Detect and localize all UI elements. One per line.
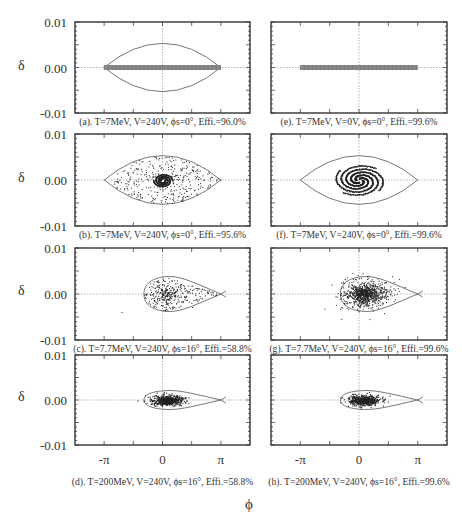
x-axis-title: ϕ [245, 496, 253, 513]
y-tick-label: -0.01 [40, 333, 67, 348]
panel-d: (d). T=200MeV, V=240V, ϕs=16°, Effi.=58.… [40, 348, 253, 488]
panel-b: (b). T=7MeV, V=240V, ϕs=0°, Effi.=95.6%0… [40, 127, 250, 241]
y-tick-label: 0.01 [44, 15, 67, 30]
panel-f: (f). T=7MeV, V=240V, ϕs=0°, Effi.=99.6% [271, 134, 447, 241]
x-tick-label: π [218, 452, 225, 467]
panel-caption: (a). T=7MeV, V=240V, ϕs=0°, Effi.=96.0% [79, 116, 246, 128]
x-tick-label: 0 [356, 452, 363, 467]
y-tick-label: 0.00 [44, 393, 67, 408]
y-tick-label: 0.01 [44, 127, 67, 142]
panel-caption: (f). T=7MeV, V=240V, ϕs=0°, Effi.=99.6% [276, 229, 442, 241]
y-tick-label: 0.00 [44, 287, 67, 302]
panel-caption: (b). T=7MeV, V=240V, ϕs=0°, Effi.=95.6% [79, 229, 246, 241]
y-tick-label: -0.01 [40, 438, 67, 453]
panel-e: (e). T=7MeV, V=0V, ϕs=0°, Effi.=99.6% [271, 22, 447, 128]
y-tick-label: -0.01 [40, 219, 67, 234]
particle-distribution [324, 273, 405, 320]
panel-caption: (e). T=7MeV, V=0V, ϕs=0°, Effi.=99.6% [280, 116, 437, 128]
x-tick-label: -π [295, 452, 306, 467]
x-tick-label: π [414, 452, 421, 467]
x-tick-label: 0 [159, 452, 166, 467]
y-tick-label: -0.01 [40, 106, 67, 121]
panel-caption: (g). T=7.7MeV, V=240V, ϕs=16°, Effi.=99.… [269, 343, 448, 355]
panel-h: (h). T=200MeV, V=240V, ϕs=16°, Effi.=99.… [268, 355, 450, 488]
panel-c: (c). T=7.7MeV, V=240V, ϕs=16°, Effi.=58.… [40, 241, 252, 355]
panel-caption: (d). T=200MeV, V=240V, ϕs=16°, Effi.=58.… [72, 476, 254, 488]
y-tick-label: 0.00 [44, 61, 67, 76]
particle-line [104, 65, 221, 70]
panel-caption: (c). T=7.7MeV, V=240V, ϕs=16°, Effi.=58.… [73, 343, 252, 355]
phase-space-figure: (a). T=7MeV, V=240V, ϕs=0°, Effi.=96.0%0… [0, 0, 462, 527]
y-axis-title-d: δ [18, 389, 25, 405]
y-axis-title-b: δ [18, 170, 25, 186]
y-axis-title-c: δ [18, 283, 25, 299]
y-axis-title-a: δ [18, 58, 25, 74]
panel-g: (g). T=7.7MeV, V=240V, ϕs=16°, Effi.=99.… [269, 248, 448, 355]
y-tick-label: 0.01 [44, 241, 67, 256]
panel-caption: (h). T=200MeV, V=240V, ϕs=16°, Effi.=99.… [268, 476, 450, 488]
particle-distribution [122, 278, 218, 313]
x-tick-label: -π [99, 452, 110, 467]
y-tick-label: 0.00 [44, 173, 67, 188]
particle-distribution [137, 392, 189, 407]
particle-distribution [336, 165, 384, 196]
panel-a: (a). T=7MeV, V=240V, ϕs=0°, Effi.=96.0%0… [40, 15, 250, 128]
y-tick-label: 0.01 [44, 348, 67, 363]
